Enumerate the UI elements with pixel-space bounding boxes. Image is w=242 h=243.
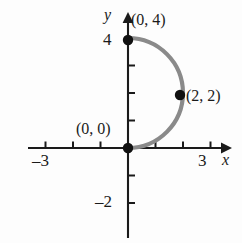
point-0-4	[123, 35, 133, 45]
y-axis-tick-label-minus-2: –2	[95, 193, 112, 210]
point-label-0-0: (0, 0)	[76, 121, 111, 137]
point-0-0	[123, 143, 133, 153]
coordinate-plane	[0, 0, 242, 243]
x-axis-tick-label-minus-3: –3	[32, 152, 49, 169]
y-axis-label: y	[104, 7, 111, 23]
point-label-0-4: (0, 4)	[131, 12, 166, 28]
semicircle-curve	[128, 38, 183, 148]
graph-figure: (0, 4) (2, 2) (0, 0) 4 –2 –3 3 y x	[0, 0, 242, 243]
x-axis-label: x	[222, 152, 229, 168]
point-2-2	[175, 90, 185, 100]
point-label-2-2: (2, 2)	[186, 88, 221, 104]
x-axis-tick-label-3: 3	[198, 152, 207, 169]
y-axis-tick-label-4: 4	[103, 31, 112, 48]
